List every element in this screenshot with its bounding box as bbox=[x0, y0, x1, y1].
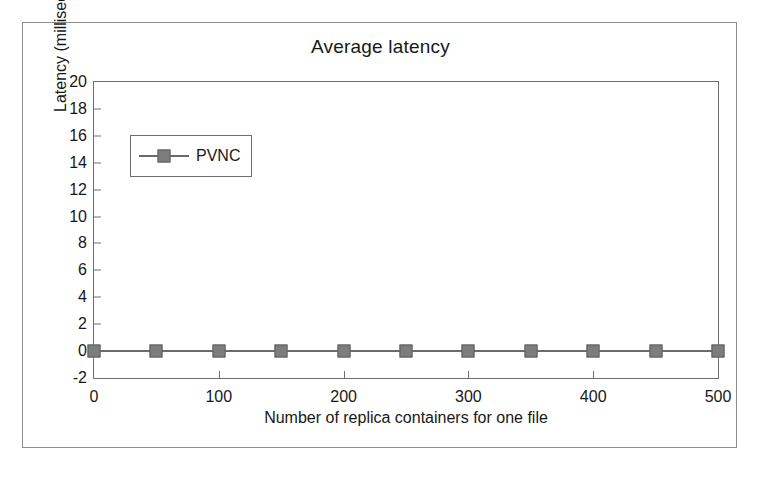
series-data-point bbox=[400, 345, 413, 358]
y-tick-label: 0 bbox=[78, 343, 87, 359]
series-data-point bbox=[337, 345, 350, 358]
legend-box: PVNC bbox=[130, 135, 252, 177]
series-line-segment bbox=[219, 350, 281, 352]
x-tick-label: 100 bbox=[205, 389, 232, 405]
legend-line-square-marker-icon bbox=[139, 149, 189, 163]
series-data-point bbox=[275, 345, 288, 358]
x-tick-label: 200 bbox=[330, 389, 357, 405]
series-data-point bbox=[587, 345, 600, 358]
x-tick-label: 500 bbox=[705, 389, 732, 405]
series-line-segment bbox=[94, 350, 156, 352]
y-tick-label: 10 bbox=[69, 209, 87, 225]
series-data-point bbox=[524, 345, 537, 358]
series-line-segment bbox=[156, 350, 218, 352]
series-data-point bbox=[462, 345, 475, 358]
chart-title: Average latency bbox=[23, 36, 738, 58]
x-tick-label: 300 bbox=[455, 389, 482, 405]
series-line-segment bbox=[531, 350, 593, 352]
series-line-segment bbox=[593, 350, 655, 352]
series-line-segment bbox=[281, 350, 343, 352]
y-tick-label: 2 bbox=[78, 316, 87, 332]
series-line-segment bbox=[656, 350, 718, 352]
y-tick-label: 20 bbox=[69, 74, 87, 90]
series-data-point bbox=[212, 345, 225, 358]
x-axis-title: Number of replica containers for one fil… bbox=[264, 409, 548, 427]
plot-area: Latency (milliseconds) -2024681012141618… bbox=[93, 81, 719, 379]
y-tick-label: 6 bbox=[78, 262, 87, 278]
y-tick-label: 8 bbox=[78, 235, 87, 251]
series-line-segment bbox=[468, 350, 530, 352]
series-line-segment bbox=[406, 350, 468, 352]
legend-entry-label: PVNC bbox=[196, 147, 240, 165]
series-line-segment bbox=[344, 350, 406, 352]
legend-entry: PVNC bbox=[131, 136, 251, 176]
series-data-point bbox=[150, 345, 163, 358]
figure-frame: Average latency Latency (milliseconds) -… bbox=[22, 22, 737, 448]
y-tick-label: 18 bbox=[69, 101, 87, 117]
y-tick-label: 16 bbox=[69, 128, 87, 144]
x-tick-label: 400 bbox=[580, 389, 607, 405]
y-tick-label: 4 bbox=[78, 289, 87, 305]
y-tick-label: -2 bbox=[73, 370, 87, 386]
y-tick-label: 14 bbox=[69, 155, 87, 171]
series-data-point bbox=[649, 345, 662, 358]
y-axis-title: Latency (milliseconds) bbox=[52, 0, 70, 112]
series-data-point bbox=[712, 345, 725, 358]
y-tick-label: 12 bbox=[69, 182, 87, 198]
series-data-point bbox=[88, 345, 101, 358]
data-series-layer bbox=[94, 82, 718, 378]
x-tick-label: 0 bbox=[90, 389, 99, 405]
